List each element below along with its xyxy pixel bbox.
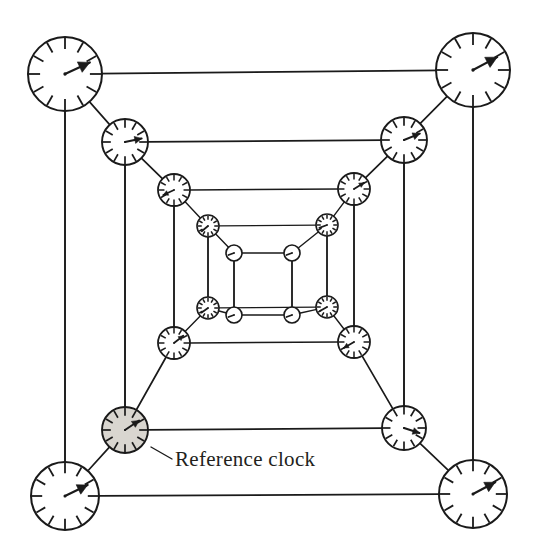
diagonal-edge-l3-to-l4	[333, 201, 345, 216]
diagonal-edge-l4-to-l5	[298, 232, 319, 249]
clock-center-pivot	[403, 427, 405, 429]
diagonal-edge-l4-to-l5	[215, 234, 228, 248]
clock-l4-tr[interactable]	[316, 214, 338, 236]
clock-center-pivot	[124, 429, 126, 431]
clock-l2-bl-reference[interactable]	[102, 407, 148, 453]
clock-l1-tl[interactable]	[28, 37, 102, 111]
clock-center-pivot	[173, 189, 174, 190]
square-edge-level-3	[189, 189, 340, 190]
diagonal-edge-l2-to-l3	[136, 356, 167, 411]
square-edge-level-3	[189, 342, 340, 343]
clock-center-pivot	[173, 342, 174, 343]
diagonal-edge-l1-to-l2	[420, 443, 448, 470]
clock-l1-tr[interactable]	[436, 33, 510, 107]
clock-l2-tl[interactable]	[102, 119, 148, 165]
clock-center-pivot	[353, 188, 354, 189]
clock-center-pivot	[233, 252, 234, 253]
clock-center-pivot	[291, 252, 292, 253]
clock-center-pivot	[233, 314, 234, 315]
diagonal-edge-l1-to-l2	[88, 100, 110, 125]
clock-l4-tl[interactable]	[197, 215, 219, 237]
square-edge-level-4	[218, 225, 317, 226]
clock-l3-br[interactable]	[338, 326, 370, 358]
clock-center-pivot	[326, 224, 327, 225]
clock-center-pivot	[207, 225, 208, 226]
clock-center-pivot	[471, 492, 474, 495]
diagram-canvas: Reference clock	[0, 0, 539, 557]
clock-center-pivot	[63, 72, 66, 75]
square-edge-level-1	[99, 70, 439, 73]
diagonal-edge-l3-to-l4	[333, 315, 344, 330]
clock-l1-bl[interactable]	[31, 462, 99, 530]
clock-l4-bl[interactable]	[197, 297, 219, 319]
clock-center-pivot	[291, 314, 292, 315]
clock-l3-tr[interactable]	[338, 173, 370, 205]
reference-clock-leader-line	[151, 447, 172, 459]
diagonal-edge-l2-to-l3	[365, 155, 389, 178]
clock-center-pivot	[207, 307, 208, 308]
clock-l5-br[interactable]	[284, 307, 300, 323]
diagonal-edge-l3-to-l4	[184, 201, 200, 218]
clock-center-pivot	[326, 306, 327, 307]
diagonal-edge-l2-to-l3	[141, 157, 164, 179]
clock-l3-tl[interactable]	[158, 174, 190, 206]
clock-l5-tr[interactable]	[284, 245, 300, 261]
diagonal-edge-l1-to-l2	[89, 446, 111, 470]
diagonal-edge-l1-to-l2	[419, 95, 448, 124]
square-edge-level-1	[99, 494, 439, 496]
clock-l3-bl[interactable]	[158, 327, 190, 359]
annotation-layer: Reference clock	[151, 447, 316, 471]
clock-l5-tl[interactable]	[226, 245, 242, 261]
clock-center-pivot	[471, 68, 474, 71]
diagonal-edge-l3-to-l4	[185, 315, 201, 332]
clock-l2-tr[interactable]	[381, 117, 427, 163]
reference-clock-label: Reference clock	[175, 447, 316, 471]
clock-center-pivot	[403, 139, 405, 141]
square-edge-level-2	[146, 428, 383, 430]
diagonal-edge-l4-to-l5	[299, 309, 316, 313]
clock-l4-br[interactable]	[316, 296, 338, 318]
square-edge-level-2	[146, 140, 383, 142]
clock-hierarchy-figure: Reference clock	[0, 0, 539, 557]
clock-center-pivot	[353, 341, 354, 342]
clock-l1-br[interactable]	[439, 460, 507, 528]
clock-l5-bl[interactable]	[226, 307, 242, 323]
clock-l2-br[interactable]	[382, 406, 426, 450]
diagonal-edge-l2-to-l3	[362, 355, 393, 409]
clock-center-pivot	[124, 141, 126, 143]
clock-center-pivot	[63, 494, 66, 497]
